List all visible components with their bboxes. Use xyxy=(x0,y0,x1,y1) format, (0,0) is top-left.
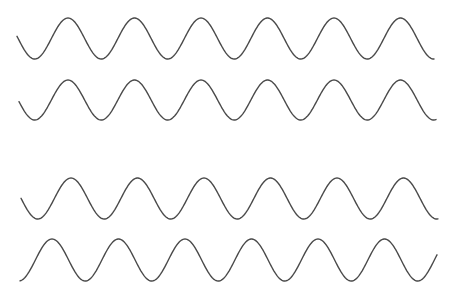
wave-diagram xyxy=(0,0,461,293)
wave-2 xyxy=(19,80,436,120)
wave-1 xyxy=(17,18,434,59)
wave-3 xyxy=(21,178,438,219)
wave-4 xyxy=(20,239,437,281)
